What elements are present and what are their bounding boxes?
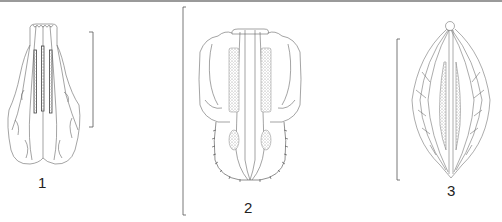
panel-2-stippling xyxy=(229,48,271,150)
panel-2-drawing xyxy=(199,29,301,182)
panel-2-label: 2 xyxy=(244,199,252,216)
figure-plate xyxy=(0,0,502,222)
panel-2-divider-bracket xyxy=(183,7,186,215)
panel-1-drawing xyxy=(8,24,80,164)
panel-1-label: 1 xyxy=(38,174,46,191)
panel-1-scale-bar xyxy=(89,32,93,127)
panel-3-scale-bar xyxy=(397,39,400,180)
panel-3-label: 3 xyxy=(447,182,455,199)
panel-3-drawing xyxy=(412,22,490,179)
panel-3-stippling xyxy=(440,62,461,150)
